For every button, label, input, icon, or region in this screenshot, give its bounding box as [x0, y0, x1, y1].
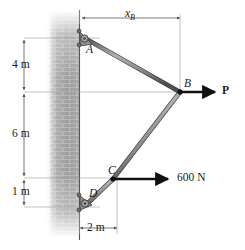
member-ab — [88, 40, 180, 92]
dimension-label-6m: 6 m — [12, 128, 30, 140]
dimension-label-2m: 2 m — [87, 222, 105, 234]
member-bc — [113, 92, 180, 179]
statics-frame-figure: xB 4 m 6 m 1 m 2 m A B C D P 600 N — [0, 0, 245, 250]
brick-wall — [36, 10, 80, 240]
dimension-label-4m: 4 m — [12, 59, 30, 71]
point-label-a: A — [86, 44, 93, 56]
dimension-label-xb: xB — [125, 8, 135, 22]
force-label-600n: 600 N — [177, 172, 205, 184]
point-label-d: D — [89, 188, 97, 200]
dimension-label-xb-subscript: B — [130, 13, 135, 22]
point-label-c: C — [108, 165, 116, 177]
force-arrows — [114, 92, 215, 179]
dimension-label-1m: 1 m — [12, 186, 30, 198]
diagram-canvas — [0, 0, 245, 250]
point-label-b: B — [184, 78, 191, 90]
force-label-p: P — [222, 85, 229, 97]
